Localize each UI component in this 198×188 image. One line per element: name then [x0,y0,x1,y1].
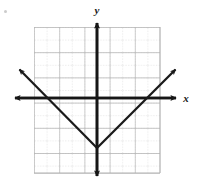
graph-figure: x y [0,0,198,188]
coordinate-plane: x y [0,0,198,188]
y-axis-label: y [93,4,100,16]
x-axis-label: x [182,92,189,104]
scan-speck-icon [4,10,7,13]
